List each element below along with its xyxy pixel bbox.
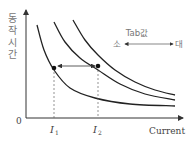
tab-label: Tab값 (125, 28, 148, 38)
curve-large-tab (73, 20, 175, 95)
marker-i2 (96, 64, 101, 69)
curves (37, 20, 175, 106)
svg-text:동작시간: 동작시간 (8, 13, 17, 60)
marker-i1 (52, 66, 57, 71)
svg-text:1: 1 (55, 129, 59, 136)
curve-mid-tab (54, 22, 175, 100)
tick-i2: I 2 (92, 124, 102, 136)
svg-text:2: 2 (98, 129, 102, 136)
tick-i1: I 1 (49, 124, 59, 136)
tab-small-label: 소 (113, 39, 121, 49)
x-axis-label: Current (149, 126, 185, 136)
y-axis-label: 동작시간 (8, 13, 17, 60)
curve-small-tab (37, 25, 175, 106)
origin-label: 0 (16, 116, 22, 126)
tab-large-label: 대 (175, 39, 183, 49)
tcc-chart: 동작시간 0 Current I 1 I 2 Tab값 소 대 (0, 0, 187, 144)
